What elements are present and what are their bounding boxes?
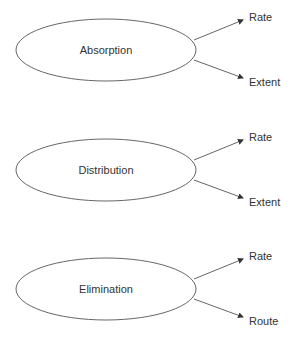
- node-distribution: Distribution Rate Extent: [16, 131, 280, 208]
- pk-diagram: Absorption Rate Extent Distribution Rate…: [0, 0, 294, 338]
- node-label: Elimination: [79, 283, 133, 295]
- arrow-up: [194, 20, 243, 40]
- branch-label-top: Rate: [249, 11, 272, 23]
- branch-label-top: Rate: [249, 131, 272, 143]
- node-label: Absorption: [80, 44, 133, 56]
- branch-label-bottom: Extent: [249, 196, 280, 208]
- arrow-up: [194, 140, 243, 160]
- branch-label-top: Rate: [249, 250, 272, 262]
- arrow-down: [194, 60, 243, 78]
- branch-label-bottom: Extent: [249, 76, 280, 88]
- branch-label-bottom: Route: [249, 315, 278, 327]
- arrow-down: [194, 299, 243, 317]
- node-label: Distribution: [78, 164, 133, 176]
- arrow-down: [194, 180, 243, 198]
- arrow-up: [194, 259, 243, 279]
- node-elimination: Elimination Rate Route: [16, 250, 278, 327]
- node-absorption: Absorption Rate Extent: [16, 11, 280, 88]
